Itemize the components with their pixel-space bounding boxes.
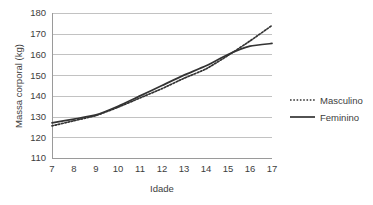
x-axis-title: Idade [150,183,174,194]
legend-item-feminino[interactable]: Feminino [290,112,359,123]
y-tick-label-180: 180 [30,7,46,18]
x-tick-label-15: 15 [223,163,234,174]
legend-item-masculino[interactable]: Masculino [290,95,363,106]
y-tick-label-140: 140 [30,90,46,101]
y-tick-label-170: 170 [30,28,46,39]
x-tick-label-10: 10 [113,163,124,174]
legend: Masculino Feminino [290,95,363,123]
x-axis-tick-labels: 7891011121314151617 [49,163,277,174]
y-tick-label-160: 160 [30,49,46,60]
y-axis-tick-labels: 110120130140150160170180 [30,7,46,163]
x-tick-label-7: 7 [49,163,54,174]
x-tick-label-14: 14 [201,163,212,174]
x-tick-label-9: 9 [93,163,98,174]
x-tick-label-12: 12 [157,163,168,174]
chart-container: 110120130140150160170180 789101112131415… [0,0,373,205]
y-tick-label-150: 150 [30,70,46,81]
chart-canvas: 110120130140150160170180 789101112131415… [0,0,373,205]
legend-label-masculino: Masculino [320,95,363,106]
x-tick-label-17: 17 [267,163,278,174]
y-tick-label-120: 120 [30,132,46,143]
y-tick-label-130: 130 [30,111,46,122]
x-tick-label-16: 16 [245,163,256,174]
y-axis-title: Massa corporal (kg) [13,44,24,128]
x-tick-label-13: 13 [179,163,190,174]
y-tick-label-110: 110 [31,152,46,163]
x-tick-label-11: 11 [135,163,145,174]
legend-label-feminino: Feminino [320,112,359,123]
x-tick-label-8: 8 [71,163,76,174]
